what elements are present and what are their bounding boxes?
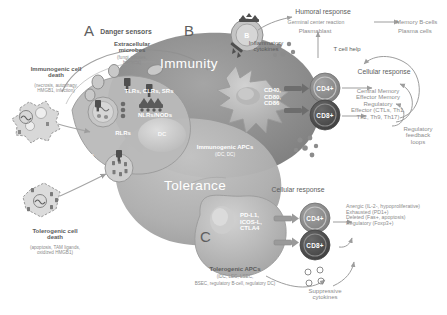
rlr-glyph	[121, 102, 126, 119]
cd8-cell-label-b: CD8+	[311, 109, 339, 121]
tlr-clr-sr-label: TLRs, CLRs, SRs	[112, 88, 186, 95]
immunity-region-label: Immunity	[160, 56, 218, 71]
rlr-label: RLRs	[106, 130, 140, 137]
panelB-feedback-loops	[364, 56, 419, 126]
tolerance-region-label: Tolerance	[164, 178, 226, 193]
phagosome-vesicle	[88, 97, 118, 127]
tolerogenic-dying-cell	[23, 183, 60, 217]
panel-letter-b: B	[184, 22, 194, 39]
diagram-vector-layer	[0, 0, 447, 315]
cd8-cell-label-c: CD8+	[301, 239, 329, 251]
figure-canvas: A B C Immunity Tolerance Danger sensors …	[0, 0, 447, 315]
inhibitory-molecules-label: PD-L1, ICOS-L, CTLA4	[240, 212, 274, 232]
tam-label: TAMs	[70, 152, 102, 159]
cd4-cell-label-b: CD4+	[311, 82, 339, 94]
nlr-nod-label: NLRs/NODs	[126, 112, 184, 119]
immunogenic-dying-cell	[12, 101, 60, 143]
cd4-cell-label-c: CD4+	[301, 212, 329, 224]
dc-label: DC	[152, 131, 172, 138]
suppressive-cytokine-dots	[305, 267, 324, 286]
immunogenic-apc-sublabel: (iDC, DC)	[190, 152, 260, 157]
b-cell-label: B	[238, 30, 256, 40]
panel-letter-c: C	[200, 228, 211, 245]
immunogenic-apc-label: Immunogenic APCs	[186, 144, 264, 151]
costim-molecules-label: CD40, CD80, CD86	[264, 87, 294, 107]
panel-letter-a: A	[84, 22, 94, 39]
